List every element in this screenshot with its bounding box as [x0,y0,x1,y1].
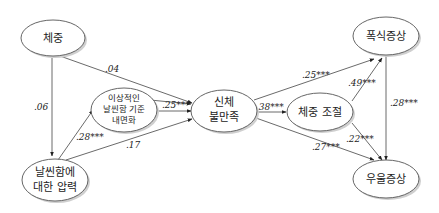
node-body-label-1: 신체 [214,96,234,109]
node-bulimia: 폭식증상 [353,17,421,57]
path-diagram: .04 .06 .28*** .17 .25*** .38*** .25*** … [0,0,439,213]
node-depression: 우울증상 [353,160,421,200]
node-internalization-label-2: 날씬함 기준 [103,104,146,114]
node-body-label-2: 불만족 [209,111,239,124]
coef-body-depression: .27*** [312,142,340,152]
node-weight: 체중 [21,20,87,58]
node-bulimia-label: 폭식증상 [366,30,406,43]
coef-weightcontrol-depression: .22*** [346,134,374,144]
node-pressure: 날씬함에 대한 압력 [22,159,90,203]
node-internalization-label-1: 이상적인 [108,93,140,103]
node-internalization-label-3: 내면화 [112,115,136,125]
node-weight-label: 체중 [43,32,63,45]
node-pressure-label-2: 대한 압력 [33,181,77,194]
node-pressure-label-1: 날씬함에 [35,166,75,179]
node-weightcontrol-label: 체중 조절 [298,106,342,119]
coef-pressure-body: .17 [126,140,141,150]
node-internalization: 이상적인 날씬함 기준 내면화 [91,88,159,134]
coef-body-bulimia: .25*** [302,70,330,80]
node-weight-control: 체중 조절 [287,93,355,133]
node-body-dissatisfaction: 신체 불만족 [191,90,259,134]
coef-bulimia-depression: .28*** [390,98,418,108]
coef-pressure-internalization: .28*** [76,132,104,142]
node-depression-label: 우울증상 [366,173,406,186]
coef-body-weightcontrol: .38*** [256,102,284,112]
coef-weightcontrol-bulimia: .49*** [348,78,376,88]
coef-internalization-body: .25*** [162,100,190,110]
coef-weight-body: .04 [105,64,120,74]
coef-weight-pressure: .06 [34,102,49,112]
